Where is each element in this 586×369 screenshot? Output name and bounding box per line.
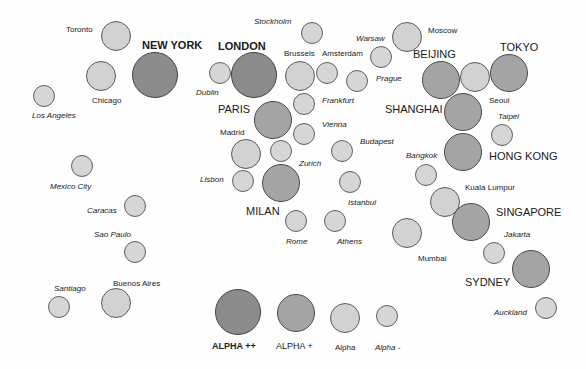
city-label-beijing: BEIJING: [413, 48, 456, 61]
city-label-paris: PARIS: [218, 103, 250, 116]
city-bubble-tokyo: [490, 54, 528, 92]
city-label-buenos-aires: Buenos Aires: [113, 279, 160, 289]
city-label-bangkok: Bangkok: [406, 151, 437, 161]
city-label-stockholm: Stockholm: [254, 17, 291, 27]
city-label-brussels: Brussels: [284, 49, 315, 59]
city-bubble-athens: [324, 210, 346, 232]
city-bubble-sydney: [512, 250, 550, 288]
city-label-caracas: Caracas: [87, 206, 117, 216]
city-label-vienna: Vienna: [322, 120, 347, 130]
city-bubble-jakarta: [483, 242, 505, 264]
city-label-shanghai: SHANGHAI: [385, 103, 442, 116]
city-label-istanbul: Istanbul: [348, 198, 376, 208]
city-label-amsterdam: Amsterdam: [322, 49, 363, 59]
city-label-madrid: Madrid: [220, 128, 244, 138]
city-label-zurich: Zurich: [299, 159, 321, 169]
legend-bubble-alpha: [330, 303, 360, 333]
city-bubble-vienna: [293, 123, 315, 145]
city-bubble-london: [231, 52, 277, 98]
city-bubble-lisbon: [232, 170, 254, 192]
city-bubble-singapore: [452, 203, 490, 241]
city-bubble-mumbai: [392, 218, 422, 248]
city-bubble-auckland: [535, 297, 557, 319]
city-label-prague: Prague: [376, 74, 402, 84]
legend-bubble-alpha: [277, 294, 315, 332]
legend-label-alpha: Alpha: [335, 343, 355, 353]
city-bubble-toronto: [101, 21, 131, 51]
city-label-kuala-lumpur: Kuala Lumpur: [465, 183, 515, 193]
city-bubble-beijing: [422, 61, 460, 99]
city-label-moscow: Moscow: [428, 26, 457, 36]
city-bubble-los-angeles: [33, 85, 55, 107]
city-label-taipei: Taipei: [498, 112, 519, 122]
city-bubble-warsaw: [370, 46, 392, 68]
city-bubble-madrid: [231, 139, 261, 169]
city-bubble-bangkok: [415, 164, 437, 186]
city-bubble-sao-paulo: [124, 241, 146, 263]
city-label-athens: Athens: [337, 237, 362, 247]
city-bubble-new-york: [132, 52, 178, 98]
city-bubble-milan: [262, 164, 300, 202]
city-label-sao-paulo: Sao Paulo: [94, 230, 131, 240]
city-bubble-budapest: [331, 140, 353, 162]
city-label-singapore: SINGAPORE: [496, 206, 561, 219]
city-bubble-map: TorontoNEW YORKChicagoLos AngelesStockho…: [0, 0, 586, 369]
city-label-warsaw: Warsaw: [356, 34, 385, 44]
city-bubble-dublin: [209, 62, 231, 84]
city-bubble-mexico-city: [71, 155, 93, 177]
city-bubble-zurich: [270, 140, 292, 162]
city-label-mumbai: Mumbai: [418, 254, 446, 264]
city-label-mexico-city: Mexico City: [50, 182, 91, 192]
city-label-budapest: Budapest: [360, 137, 394, 147]
city-label-new-york: NEW YORK: [142, 39, 202, 52]
city-bubble-rome: [285, 210, 307, 232]
city-label-chicago: Chicago: [92, 96, 121, 106]
city-bubble-brussels: [285, 61, 315, 91]
legend-label-alpha: ALPHA +: [276, 341, 313, 351]
city-bubble-prague: [346, 70, 368, 92]
city-bubble-stockholm: [301, 22, 323, 44]
city-bubble-caracas: [124, 195, 146, 217]
city-bubble-buenos-aires: [101, 288, 131, 318]
city-label-lisbon: Lisbon: [200, 175, 224, 185]
city-label-frankfurt: Frankfurt: [322, 96, 354, 106]
city-label-jakarta: Jakarta: [504, 230, 530, 240]
city-bubble-santiago: [48, 296, 70, 318]
city-label-milan: MILAN: [246, 205, 280, 218]
city-label-los-angeles: Los Angeles: [32, 111, 76, 121]
city-bubble-frankfurt: [293, 93, 315, 115]
legend-bubble-alpha: [376, 305, 398, 327]
legend-label-alpha: Alpha -: [375, 343, 400, 353]
city-label-hong-kong: HONG KONG: [489, 150, 557, 163]
legend-bubble-alpha: [215, 289, 261, 335]
city-label-tokyo: TOKYO: [500, 41, 538, 54]
city-label-dublin: Dublin: [196, 88, 219, 98]
city-label-toronto: Toronto: [66, 25, 93, 35]
city-bubble-paris: [254, 101, 292, 139]
city-bubble-hong-kong: [444, 133, 482, 171]
city-label-auckland: Auckland: [494, 308, 527, 318]
city-bubble-amsterdam: [316, 62, 338, 84]
legend-label-alpha: ALPHA ++: [212, 341, 256, 351]
city-bubble-taipei: [491, 124, 513, 146]
city-label-santiago: Santiago: [54, 284, 86, 294]
city-label-sydney: SYDNEY: [465, 276, 510, 289]
city-bubble-shanghai: [444, 93, 482, 131]
city-bubble-istanbul: [339, 171, 361, 193]
city-label-london: LONDON: [218, 40, 266, 53]
city-label-rome: Rome: [286, 237, 307, 247]
city-label-seoul: Seoul: [489, 96, 509, 106]
city-bubble-seoul: [460, 62, 490, 92]
city-bubble-chicago: [86, 61, 116, 91]
